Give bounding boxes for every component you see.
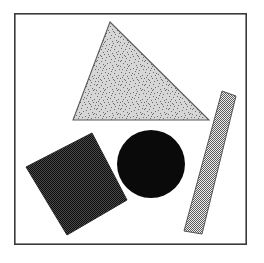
figure-canvas: Geometric shapes with textured fills (0, 0, 264, 263)
shapes-illustration (0, 0, 264, 263)
circle-shape (117, 130, 185, 198)
